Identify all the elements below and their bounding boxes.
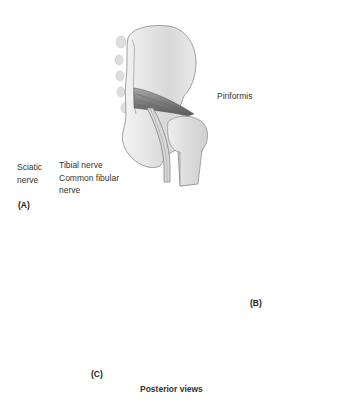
anatomy-illustration: [0, 0, 359, 406]
panel-a-illustration: [115, 26, 208, 187]
panel-a-label: (A): [18, 200, 30, 210]
figure-caption: Posterior views: [140, 384, 203, 394]
panel-b-label: (B): [250, 298, 262, 308]
sciatic-label-line1: Sciatic: [17, 162, 42, 172]
sciatic-label-line2: nerve: [17, 175, 38, 185]
tibial-label: Tibial nerve: [59, 160, 103, 170]
common-fibular-label-line1: Common fibular: [59, 173, 119, 183]
panel-c-label: (C): [91, 369, 103, 379]
common-fibular-label-line2: nerve: [59, 185, 80, 195]
piriformis-label: Piriformis: [217, 91, 252, 101]
